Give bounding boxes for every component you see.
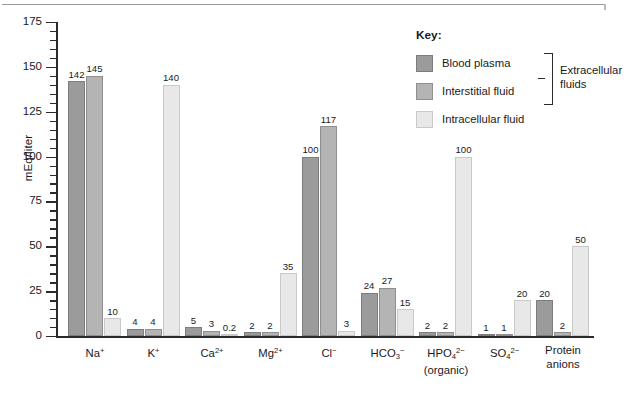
- y-tick: [50, 318, 57, 319]
- legend-item-label: Intracellular fluid: [442, 113, 524, 125]
- bar: [244, 332, 261, 336]
- y-tick: [50, 309, 57, 310]
- y-tick-label: 0: [2, 329, 42, 341]
- bar: [86, 76, 103, 336]
- legend-item: Intracellular fluid: [416, 107, 606, 131]
- bar-value-label: 100: [449, 144, 479, 155]
- bar-value-label: 145: [80, 63, 110, 74]
- y-tick: [50, 85, 57, 86]
- y-tick: [50, 219, 57, 220]
- bar-value-label: 20: [530, 288, 560, 299]
- y-tick-label: 25: [2, 284, 42, 296]
- bar: [280, 273, 297, 336]
- brace-line-2: fluids: [560, 78, 586, 90]
- bar-value-label: 10: [98, 306, 128, 317]
- y-tick: [50, 210, 57, 211]
- legend-item-label: Interstitial fluid: [442, 85, 514, 97]
- bar: [262, 332, 279, 336]
- bar: [68, 81, 85, 336]
- y-tick: [46, 291, 57, 292]
- y-tick: [46, 67, 57, 68]
- legend-rows: Blood plasmaInterstitial fluidIntracellu…: [416, 51, 606, 131]
- y-tick: [46, 112, 57, 113]
- bar-group: 14214510: [68, 22, 122, 336]
- y-tick: [50, 58, 57, 59]
- y-tick: [50, 175, 57, 176]
- y-tick: [50, 327, 57, 328]
- y-tick: [50, 40, 57, 41]
- legend-title: Key:: [416, 28, 606, 42]
- y-axis-line: [56, 22, 58, 337]
- bar: [338, 331, 355, 336]
- legend-swatch-icon: [416, 83, 433, 100]
- bar: [554, 332, 571, 336]
- bar: [496, 334, 513, 336]
- bar: [514, 300, 531, 336]
- y-tick-label: 125: [2, 105, 42, 117]
- y-tick: [46, 201, 57, 202]
- y-tick: [50, 166, 57, 167]
- y-tick: [50, 228, 57, 229]
- y-tick: [46, 246, 57, 247]
- y-tick-label: 150: [2, 60, 42, 72]
- bar-value-label: 117: [314, 114, 344, 125]
- bar: [302, 157, 319, 336]
- bar: [163, 85, 180, 336]
- y-tick: [50, 282, 57, 283]
- bar-value-label: 140: [156, 72, 186, 83]
- y-tick: [50, 139, 57, 140]
- bar-group: 2235: [244, 22, 298, 336]
- legend: Key: Blood plasmaInterstitial fluidIntra…: [416, 28, 606, 135]
- y-tick-label: 175: [2, 15, 42, 27]
- y-tick: [46, 336, 57, 337]
- y-tick: [50, 103, 57, 104]
- bar-value-label: 50: [566, 234, 596, 245]
- y-tick: [50, 183, 57, 184]
- y-tick: [46, 157, 57, 158]
- y-tick: [46, 22, 57, 23]
- y-tick: [50, 255, 57, 256]
- bar: [572, 246, 589, 336]
- bar-value-label: 15: [390, 297, 420, 308]
- bar: [397, 309, 414, 336]
- bar: [127, 329, 144, 336]
- bar-group: 530.2: [185, 22, 239, 336]
- bar: [221, 334, 238, 336]
- y-tick-label: 50: [2, 239, 42, 251]
- y-tick: [50, 130, 57, 131]
- bar-group: 242715: [361, 22, 415, 336]
- legend-item-label: Blood plasma: [442, 57, 510, 69]
- y-tick: [50, 237, 57, 238]
- bar: [437, 332, 454, 336]
- bar: [419, 332, 436, 336]
- bar-group: 44140: [127, 22, 181, 336]
- x-axis-line: [56, 336, 594, 338]
- bar: [455, 157, 472, 336]
- bar: [145, 329, 162, 336]
- y-tick-label: 75: [2, 194, 42, 206]
- y-tick: [50, 148, 57, 149]
- bar: [379, 288, 396, 336]
- bar: [320, 126, 337, 336]
- y-tick: [50, 121, 57, 122]
- y-tick: [50, 264, 57, 265]
- bar: [361, 293, 378, 336]
- category-label: Proteinanions: [517, 344, 609, 371]
- bar: [104, 318, 121, 336]
- y-tick: [50, 300, 57, 301]
- bar-value-label: 3: [332, 318, 362, 329]
- bar-value-label: 35: [273, 261, 303, 272]
- bar: [478, 334, 495, 336]
- extracellular-brace-label: Extracellular fluids: [560, 64, 627, 91]
- legend-swatch-icon: [416, 55, 433, 72]
- bar-group: 1001173: [302, 22, 356, 336]
- y-tick: [50, 31, 57, 32]
- y-tick: [50, 192, 57, 193]
- y-tick-label: 100: [2, 150, 42, 162]
- extracellular-brace-icon: [544, 53, 553, 105]
- y-tick: [50, 76, 57, 77]
- legend-swatch-icon: [416, 111, 433, 128]
- bar-value-label: 27: [372, 275, 402, 286]
- y-tick: [50, 94, 57, 95]
